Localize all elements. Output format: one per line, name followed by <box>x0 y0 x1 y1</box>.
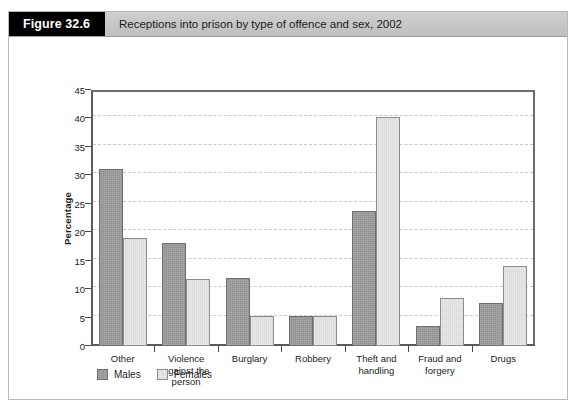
bar-females <box>313 316 337 346</box>
bar-females <box>186 279 210 346</box>
figure-card: Figure 32.6 Receptions into prison by ty… <box>8 11 568 400</box>
x-axis-tick-mark <box>408 346 409 352</box>
x-axis-tick-label: Other <box>91 353 154 365</box>
bar-males <box>226 278 250 346</box>
y-axis-tick-label: 20 <box>63 227 85 238</box>
bar-males <box>416 326 440 346</box>
y-axis-tick-label: 15 <box>63 255 85 266</box>
bar-group <box>91 90 154 346</box>
y-axis-tick-label: 0 <box>63 341 85 352</box>
bar-males <box>99 169 123 346</box>
bar-females <box>376 117 400 346</box>
chart-legend: MalesFemales <box>97 369 212 380</box>
bar-females <box>440 298 464 346</box>
x-axis-tick-label: Robbery <box>281 353 344 365</box>
y-axis-tick-label: 40 <box>63 113 85 124</box>
x-axis-tick-label: Fraud andforgery <box>408 353 471 376</box>
figure-caption: Receptions into prison by type of offenc… <box>105 12 402 36</box>
bar-males <box>352 211 376 346</box>
legend-label: Males <box>114 369 141 380</box>
x-axis-tick-mark <box>472 346 473 352</box>
y-axis-tick-label: 25 <box>63 198 85 209</box>
bar-males <box>162 243 186 346</box>
figure-number-badge: Figure 32.6 <box>9 12 105 36</box>
bar-females <box>250 316 274 346</box>
y-axis-tick-label: 35 <box>63 141 85 152</box>
bar-chart: Percentage 051015202530354045 OtherViole… <box>9 37 567 399</box>
bar-males <box>479 303 503 346</box>
y-axis-tick-label: 45 <box>63 85 85 96</box>
x-axis-tick-mark <box>281 346 282 352</box>
x-axis-tick-marks <box>91 346 535 352</box>
y-axis-tick-labels: 051015202530354045 <box>63 90 85 346</box>
x-axis-tick-mark <box>154 346 155 352</box>
bar-group <box>345 90 408 346</box>
x-axis-tick-label: Burglary <box>218 353 281 365</box>
legend-swatch-females <box>157 369 168 380</box>
bar-group <box>218 90 281 346</box>
x-axis-tick-mark <box>345 346 346 352</box>
bar-males <box>289 316 313 346</box>
x-axis-tick-label: Theft andhandling <box>345 353 408 376</box>
bar-females <box>123 238 147 346</box>
legend-label: Females <box>174 369 212 380</box>
bars-layer <box>91 90 535 346</box>
y-axis-tick-label: 10 <box>63 284 85 295</box>
bar-group <box>408 90 471 346</box>
x-axis-tick-label: Drugs <box>472 353 535 365</box>
y-axis-tick-label: 30 <box>63 170 85 181</box>
figure-body: Percentage 051015202530354045 OtherViole… <box>9 37 567 399</box>
bar-females <box>503 266 527 346</box>
figure-header: Figure 32.6 Receptions into prison by ty… <box>9 12 567 37</box>
legend-item-females: Females <box>157 369 212 380</box>
bar-group <box>472 90 535 346</box>
bar-group <box>154 90 217 346</box>
legend-swatch-males <box>97 369 108 380</box>
x-axis-tick-mark <box>218 346 219 352</box>
y-axis-tick-label: 5 <box>63 312 85 323</box>
legend-item-males: Males <box>97 369 141 380</box>
bar-group <box>281 90 344 346</box>
